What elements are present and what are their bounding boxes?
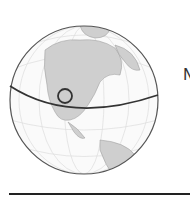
partial-label: N <box>183 66 190 84</box>
horizontal-rule <box>9 193 190 195</box>
globe-map <box>0 0 170 190</box>
